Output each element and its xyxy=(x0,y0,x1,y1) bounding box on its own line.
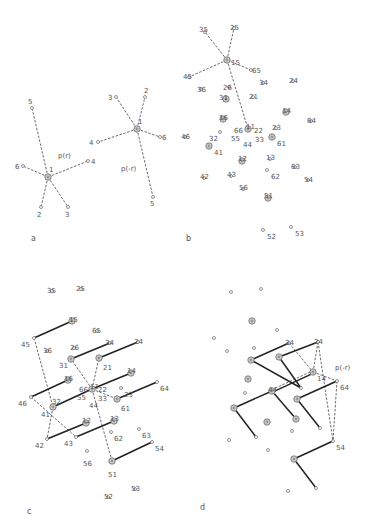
vector-line xyxy=(116,97,137,129)
peak-label-12: 12 xyxy=(82,417,91,425)
panel-label-a: a xyxy=(31,234,36,243)
peak-label-56: 56 xyxy=(239,184,248,192)
peak-label-51: 51 xyxy=(108,471,117,479)
peak-label-65: 65 xyxy=(252,67,261,75)
atom-peak-large xyxy=(231,405,237,411)
atom-peak-small xyxy=(315,487,318,490)
peak-label-32: 32 xyxy=(209,135,218,143)
atom-peak-large xyxy=(68,356,74,362)
peak-label-36: 36 xyxy=(43,347,52,355)
vector-line xyxy=(227,60,248,129)
peak-label-52: 52 xyxy=(104,493,113,501)
peak-label-44: 44 xyxy=(268,386,277,394)
peak-label-54: 54 xyxy=(336,444,345,452)
peak-label-23: 23 xyxy=(272,124,281,132)
atom-peak-large xyxy=(114,396,120,402)
star-positive: 564231p(r) xyxy=(15,98,96,219)
atom-peak-small xyxy=(115,96,118,99)
vector-line xyxy=(41,177,48,207)
peak-label-56: 56 xyxy=(83,460,92,468)
atom-peak-small xyxy=(33,337,36,340)
atom-peak-small xyxy=(144,96,147,99)
peak-label-35: 35 xyxy=(199,26,208,34)
peak-label-16: 16 xyxy=(64,375,73,383)
function-label: p(-r) xyxy=(121,165,137,173)
peak-label-22: 22 xyxy=(254,127,263,135)
atom-peak-small xyxy=(46,438,49,441)
atom-label: 3 xyxy=(108,94,112,102)
atom-peak-small xyxy=(110,431,113,434)
peak-label-55: 55 xyxy=(77,394,86,402)
peak-label-65: 65 xyxy=(92,327,101,335)
atom-peak-large xyxy=(249,318,255,324)
peak-label-66: 66 xyxy=(79,386,88,394)
function-label: p(-r) xyxy=(335,364,351,372)
atom-peak-small xyxy=(332,440,335,443)
peak-label-44: 44 xyxy=(89,402,98,410)
atom-peak-large xyxy=(248,357,254,363)
solid-link xyxy=(47,423,86,439)
peak-label-53: 53 xyxy=(295,230,304,238)
origin-label: 1 xyxy=(138,118,142,126)
atom-peak-small xyxy=(266,169,269,172)
peak-label-14: 14 xyxy=(127,367,136,375)
peak-label-31: 31 xyxy=(59,362,68,370)
solid-link xyxy=(234,391,272,408)
atom-label: 6 xyxy=(162,134,167,142)
peak-label-34: 34 xyxy=(105,339,114,347)
vector-line xyxy=(48,161,88,177)
solid-link xyxy=(112,442,152,461)
atom-peak-large xyxy=(310,369,316,375)
atom-peak-small xyxy=(22,165,25,168)
solid-link xyxy=(117,382,157,399)
atom-peak-small xyxy=(267,449,270,452)
peak-label-52: 52 xyxy=(267,233,276,241)
peak-label-33: 33 xyxy=(98,395,107,403)
peak-label-23: 23 xyxy=(124,391,133,399)
solid-link xyxy=(234,408,256,437)
peak-label-14: 14 xyxy=(282,107,291,115)
star-negative: 324651p(-r) xyxy=(89,87,167,208)
atom-peak-small xyxy=(336,380,339,383)
atom-peak-small xyxy=(97,141,100,144)
atom-peak-small xyxy=(260,288,263,291)
dashed-link xyxy=(318,342,333,441)
peak-label-54: 54 xyxy=(304,176,313,184)
solid-link xyxy=(251,343,289,360)
solid-link xyxy=(294,459,316,488)
atom-peak-small xyxy=(87,160,90,163)
peak-label-66: 66 xyxy=(234,127,243,135)
atom-peak-small xyxy=(262,229,265,232)
peak-label-63: 63 xyxy=(142,432,151,440)
peak-label-24: 24 xyxy=(314,338,323,346)
peak-label-15: 15 xyxy=(231,59,240,67)
dashed-link xyxy=(333,381,337,441)
atom-peak-small xyxy=(287,490,290,493)
peak-label-54: 54 xyxy=(155,445,164,453)
peak-label-35: 35 xyxy=(47,287,56,295)
peak-label-51: 51 xyxy=(264,192,273,200)
peak-label-44: 44 xyxy=(243,141,252,149)
atom-peak-large xyxy=(50,404,56,410)
peak-label-43: 43 xyxy=(227,171,236,179)
dashed-link xyxy=(289,343,313,372)
atom-label: 6 xyxy=(15,163,20,171)
vector-line xyxy=(23,166,48,177)
atom-peak-small xyxy=(213,337,216,340)
atom-label: 2 xyxy=(37,211,41,219)
peak-label-13: 13 xyxy=(266,154,275,162)
peak-label-45: 45 xyxy=(183,73,192,81)
peak-label-61: 61 xyxy=(277,140,286,148)
atom-peak-small xyxy=(156,381,159,384)
atom-peak-small xyxy=(219,131,222,134)
peak-label-53: 53 xyxy=(131,485,140,493)
peak-label-62: 62 xyxy=(114,435,123,443)
peak-label-62: 62 xyxy=(271,173,280,181)
atom-peak-large xyxy=(224,57,230,63)
atom-peak-small xyxy=(152,196,155,199)
solid-link xyxy=(294,441,333,459)
peak-label-31: 31 xyxy=(219,94,228,102)
atom-peak-large xyxy=(269,134,275,140)
dashed-link xyxy=(313,342,318,372)
atom-peak-large xyxy=(245,376,251,382)
